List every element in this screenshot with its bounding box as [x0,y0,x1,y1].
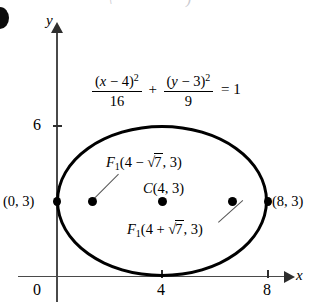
x-axis-label: x [296,267,303,284]
ellipse-equation: (x − 4)2 16 + (y − 3)2 9 = 1 [92,72,241,110]
x-tick-mark-8 [267,270,269,278]
x-tick-label-8: 8 [263,281,271,299]
y-axis-label: y [46,12,53,29]
y-tick-mark-6 [53,125,62,127]
equation-left-fraction: (x − 4)2 16 [92,72,142,110]
y-axis-line [56,30,58,302]
equation-left-denominator: 16 [92,93,142,110]
equation-right-fraction: (y − 3)2 9 [164,72,214,110]
x-tick-label-0: 0 [33,281,41,299]
list-bullet-marker [0,7,9,29]
x-tick-label-4: 4 [157,281,165,299]
cropped-text-fragment-right: ) [186,0,192,8]
equation-left-numerator: (x − 4)2 [92,72,142,90]
focus-right-label: F1(4 + √7, 3) [127,221,203,239]
point-focus-right [228,197,237,206]
point-vertex-left [53,197,61,206]
y-tick-label-6: 6 [33,116,41,134]
point-vertex-right [264,197,272,206]
figure-canvas: \ ) y x 6 0 4 8 (x − 4)2 16 + (y − 3)2 9… [0,0,315,302]
fraction-bar-right [164,91,214,92]
point-focus-left [88,197,97,206]
center-label: C(4, 3) [143,180,184,197]
equation-equals-one: = 1 [217,81,241,97]
vertex-left-label: (0, 3) [3,193,34,210]
vertex-right-label: (8, 3) [272,193,303,210]
fraction-bar-left [92,91,142,92]
equation-right-denominator: 9 [164,93,214,110]
equation-right-numerator: (y − 3)2 [164,72,214,90]
equation-plus-sign: + [145,81,159,97]
focus-left-label: F1(4 − √7, 3) [106,154,182,172]
x-axis-arrow-icon [284,271,295,283]
point-center [158,197,167,206]
cropped-text-fragment-left: \ [108,0,113,8]
